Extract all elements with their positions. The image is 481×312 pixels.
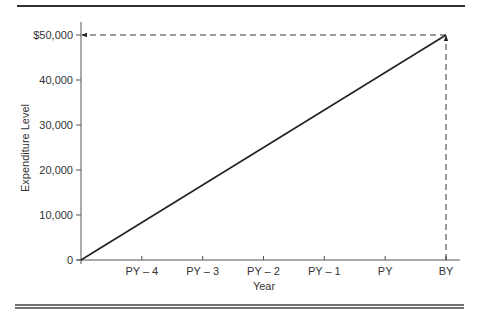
x-tick-label: PY – 4 [125, 265, 158, 277]
y-tick-label: 30,000 [39, 119, 73, 131]
series-line [81, 35, 446, 260]
x-tick-label: BY [439, 265, 454, 277]
chart: 010,00020,00030,00040,000$50,000PY – 4PY… [0, 0, 481, 312]
series [81, 35, 446, 260]
y-tick-label: 0 [67, 254, 73, 266]
x-tick-label: PY – 1 [308, 265, 341, 277]
y-tick-label: $50,000 [33, 29, 73, 41]
x-axis-title: Year [253, 280, 276, 292]
axes: 010,00020,00030,00040,000$50,000PY – 4PY… [33, 22, 460, 277]
y-tick-label: 20,000 [39, 164, 73, 176]
labels: Expenditure Level Year [19, 104, 275, 292]
y-tick-label: 10,000 [39, 209, 73, 221]
x-tick-label: PY [378, 265, 393, 277]
y-tick-label: 40,000 [39, 74, 73, 86]
y-axis-title: Expenditure Level [19, 104, 31, 192]
x-tick-label: PY – 2 [247, 265, 280, 277]
x-tick-label: PY – 3 [186, 265, 219, 277]
